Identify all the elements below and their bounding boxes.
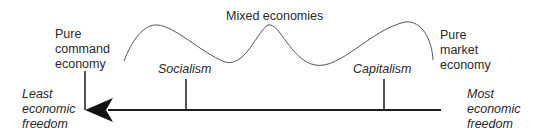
socialism-label: Socialism [158,62,212,77]
mixed-economies-label: Mixed economies [226,9,323,24]
pure-market-economy-label: Pure market economy [440,28,491,73]
most-freedom-label: Most economic freedom [467,87,521,132]
least-freedom-label: Least economic freedom [22,87,76,132]
pure-command-economy-label: Pure command economy [55,27,110,72]
capitalism-label: Capitalism [353,62,411,77]
mixed-economies-curve [124,22,433,66]
